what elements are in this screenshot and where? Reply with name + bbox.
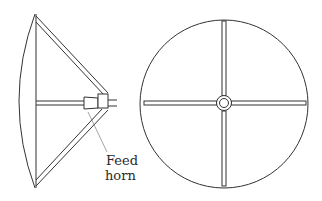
hub-outer bbox=[217, 96, 232, 111]
spoke-right bbox=[231, 101, 306, 105]
spoke-bottom bbox=[222, 111, 226, 186]
front-view bbox=[140, 20, 308, 188]
feed-horn-label-line2: horn bbox=[105, 168, 136, 183]
feed-horn-label-line1: Feed bbox=[106, 153, 138, 168]
upper-strut bbox=[36, 16, 108, 93]
spoke-top bbox=[222, 21, 226, 96]
antenna-diagram bbox=[0, 0, 322, 201]
label-leader bbox=[88, 112, 107, 152]
side-view bbox=[19, 14, 117, 188]
feed-horn bbox=[84, 97, 98, 109]
spoke-left bbox=[144, 101, 217, 105]
feed-box bbox=[98, 94, 108, 108]
lower-strut bbox=[36, 110, 108, 186]
dish-arc bbox=[19, 14, 35, 188]
